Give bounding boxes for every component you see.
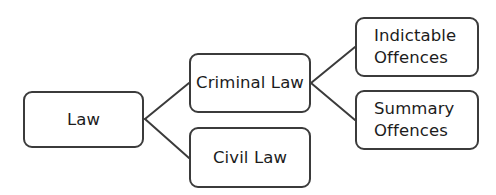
- edge-criminal-to-indictable: [311, 47, 355, 83]
- node-criminal-law[interactable]: Criminal Law: [189, 53, 311, 113]
- node-law[interactable]: Law: [23, 91, 144, 148]
- edge-criminal-to-summary: [311, 83, 355, 120]
- node-civil-law[interactable]: Civil Law: [189, 127, 311, 188]
- edge-law-to-criminal: [145, 83, 189, 119]
- node-civil-law-label: Civil Law: [191, 147, 309, 169]
- edge-law-to-civil: [145, 119, 189, 158]
- diagram-canvas: Law Criminal Law Civil Law Indictable Of…: [0, 0, 496, 195]
- node-indictable-offences[interactable]: Indictable Offences: [355, 17, 479, 77]
- node-indictable-offences-label: Indictable Offences: [357, 25, 477, 69]
- node-criminal-law-label: Criminal Law: [191, 72, 309, 94]
- node-summary-offences[interactable]: Summary Offences: [355, 90, 479, 150]
- node-law-label: Law: [25, 109, 142, 131]
- node-summary-offences-label: Summary Offences: [357, 98, 477, 142]
